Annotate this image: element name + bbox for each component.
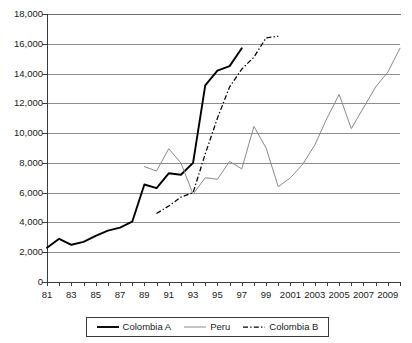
legend-label-peru: Peru [210,322,230,332]
legend-label-colombia-b: Colombia B [269,322,318,332]
legend-item-colombia-a: Colombia A [97,322,172,332]
series-line-colombia-a [47,48,242,248]
legend-swatch-colombia-b [243,323,265,331]
legend-label-colombia-a: Colombia A [123,322,172,332]
legend-swatch-peru [184,323,206,331]
legend-item-colombia-b: Colombia B [243,322,318,332]
series-layer [0,0,412,343]
line-chart: 02,0004,0006,0008,00010,00012,00014,0001… [0,0,412,343]
series-line-colombia-b [157,36,279,213]
legend-swatch-colombia-a [97,323,119,331]
legend-item-peru: Peru [184,322,230,332]
chart-legend: Colombia A Peru Colombia B [86,317,329,337]
